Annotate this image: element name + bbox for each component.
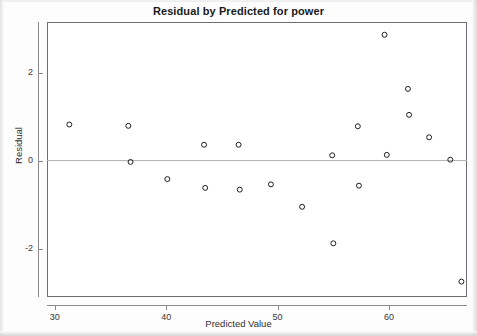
data-point	[331, 241, 336, 246]
data-point	[237, 187, 242, 192]
scan-artifact-top	[0, 0, 477, 2]
data-point	[202, 142, 207, 147]
data-point	[268, 182, 273, 187]
y-axis-tick	[38, 73, 43, 74]
data-point	[382, 32, 387, 37]
data-point	[427, 135, 432, 140]
y-axis-title: Residual	[13, 116, 24, 176]
data-point	[236, 142, 241, 147]
y-axis-spine	[38, 22, 39, 297]
data-point	[459, 279, 464, 284]
data-point	[300, 204, 305, 209]
scan-artifact-bottom	[0, 331, 477, 336]
y-axis-tick	[38, 249, 43, 250]
data-point	[448, 157, 453, 162]
x-axis-tick	[389, 305, 390, 310]
chart-screenshot: Residual by Predicted for power 20-23040…	[0, 0, 477, 336]
scan-artifact-left	[0, 0, 4, 336]
x-axis-tick	[166, 305, 167, 310]
x-axis-spine	[47, 305, 467, 306]
data-point	[355, 124, 360, 129]
data-point	[405, 86, 410, 91]
data-point	[165, 177, 170, 182]
data-point	[203, 185, 208, 190]
data-point	[126, 123, 131, 128]
chart-title: Residual by Predicted for power	[0, 5, 477, 17]
data-point	[67, 122, 72, 127]
y-axis-tick-label: -2	[11, 243, 33, 253]
x-axis-title: Predicted Value	[0, 318, 477, 329]
data-point	[407, 112, 412, 117]
data-points-group	[67, 32, 464, 284]
x-axis-tick	[278, 305, 279, 310]
x-axis-tick	[55, 305, 56, 310]
y-axis-tick-label: 2	[11, 67, 33, 77]
data-point	[384, 152, 389, 157]
scatter-plot-canvas	[47, 22, 467, 297]
y-axis-tick	[38, 161, 43, 162]
data-point	[330, 153, 335, 158]
scan-artifact-right	[472, 0, 477, 336]
data-point	[356, 183, 361, 188]
